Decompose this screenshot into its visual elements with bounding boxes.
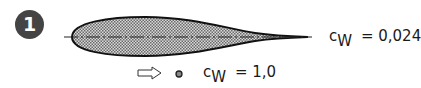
equals-sign: =	[235, 63, 248, 81]
cw-symbol: c	[203, 63, 211, 81]
cylinder-icon	[176, 71, 182, 77]
cw-subscript: W	[211, 68, 226, 86]
airfoil-drag-coefficient: cW = 0,024	[329, 27, 421, 45]
cylinder-cw-value: 1,0	[252, 63, 276, 81]
cylinder-drag-coefficient: cW = 1,0	[203, 63, 276, 81]
airfoil-cw-value: 0,024	[378, 27, 421, 45]
equals-sign: =	[361, 27, 374, 45]
cw-subscript: W	[337, 32, 352, 50]
cw-symbol: c	[329, 27, 337, 45]
flow-direction-arrow-icon	[138, 67, 161, 79]
